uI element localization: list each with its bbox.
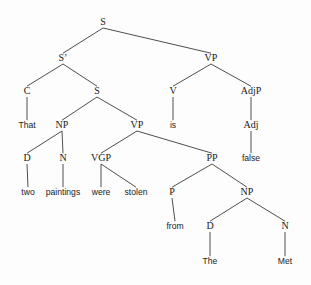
tree-node-PP: PP — [206, 152, 218, 163]
tree-node-VGP: VGP — [91, 152, 111, 163]
tree-edge-NP-subj-to-D-subj — [27, 131, 62, 153]
tree-edge-Sbar-to-S-embed — [63, 64, 97, 86]
tree-node-from: from — [166, 221, 183, 231]
tree-node-D-subj: D — [23, 152, 30, 163]
tree-node-false: false — [242, 153, 260, 163]
tree-node-Sbar: S’ — [59, 52, 68, 63]
tree-node-N-obj: N — [281, 220, 288, 231]
tree-node-C: C — [24, 85, 31, 96]
tree-edge-D-subj-to-two — [27, 164, 28, 187]
syntax-tree-figure: SS’VPCSVAdjPThatNPVPisAdjDNVGPPPfalsetwo… — [0, 0, 311, 285]
tree-edge-VP-embed-to-VGP — [101, 131, 137, 153]
tree-edge-NP-obj-to-N-obj — [247, 198, 285, 221]
tree-edge-S-embed-to-VP-embed — [97, 97, 137, 120]
tree-node-paintings: paintings — [46, 187, 80, 197]
tree-node-NP-obj: NP — [241, 186, 254, 197]
tree-node-stolen: stolen — [125, 187, 148, 197]
tree-edge-VP-main-to-AdjP — [211, 64, 251, 86]
tree-edge-VGP-to-stolen — [101, 164, 136, 187]
tree-node-V: V — [169, 85, 177, 96]
tree-node-two: two — [21, 187, 35, 197]
tree-node-N-subj: N — [59, 152, 66, 163]
tree-edge-S-root-to-Sbar — [63, 28, 103, 53]
tree-node-The: The — [203, 256, 218, 266]
tree-edge-Sbar-to-C — [27, 64, 63, 86]
tree-edge-PP-to-NP-obj — [212, 164, 247, 187]
tree-edge-P-to-from — [172, 198, 175, 221]
tree-edge-PP-to-P — [172, 164, 212, 187]
tree-edge-NP-obj-to-D-obj — [210, 198, 247, 221]
tree-edge-NP-subj-to-N-subj — [62, 131, 63, 153]
tree-node-layer: SS’VPCSVAdjPThatNPVPisAdjDNVGPPPfalsetwo… — [18, 16, 292, 266]
tree-node-S-embed: S — [94, 85, 100, 96]
tree-node-Adj: Adj — [244, 119, 259, 130]
tree-node-NP-subj: NP — [56, 119, 69, 130]
tree-edge-VP-main-to-V — [173, 64, 211, 86]
tree-node-S-root: S — [100, 16, 106, 27]
tree-node-VP-main: VP — [205, 52, 218, 63]
tree-edge-VP-embed-to-PP — [137, 131, 212, 153]
syntax-tree-canvas: SS’VPCSVAdjPThatNPVPisAdjDNVGPPPfalsetwo… — [0, 0, 311, 285]
tree-node-AdjP: AdjP — [241, 85, 262, 96]
tree-edge-S-root-to-VP-main — [103, 28, 211, 53]
tree-node-Met: Met — [278, 256, 293, 266]
tree-node-were: were — [91, 187, 111, 197]
tree-node-D-obj: D — [206, 220, 213, 231]
tree-node-P: P — [169, 186, 175, 197]
tree-node-That: That — [18, 120, 36, 130]
tree-edge-S-embed-to-NP-subj — [62, 97, 97, 120]
tree-node-is: is — [170, 120, 176, 130]
tree-node-VP-embed: VP — [131, 119, 144, 130]
